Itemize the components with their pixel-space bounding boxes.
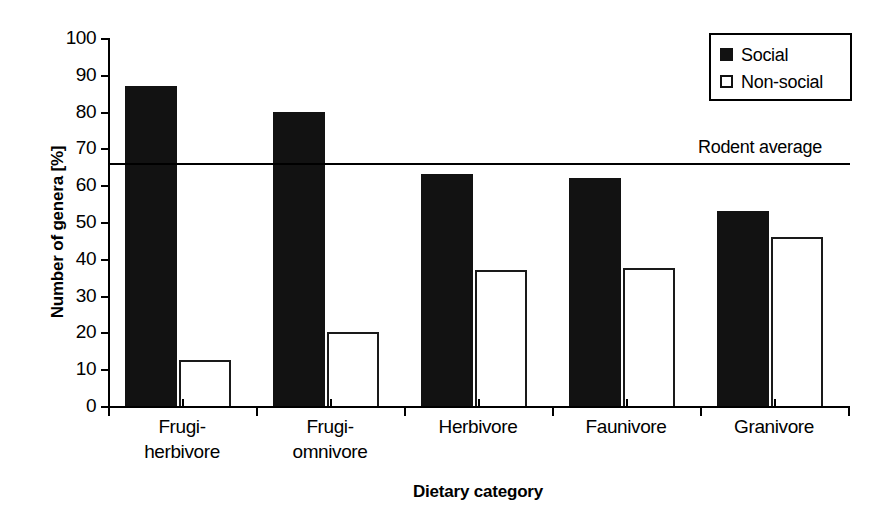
bar-chart-figure: Number of genera [%] 1009080706050403020… xyxy=(0,0,877,524)
x-axis-category-label-line: Granivore xyxy=(700,414,848,439)
bar-social xyxy=(421,174,473,406)
bar-nonsocial xyxy=(475,270,527,406)
x-axis-category-label-line: Frugi- xyxy=(108,414,256,439)
x-axis-category-label: Faunivore xyxy=(552,414,700,439)
bar-social xyxy=(569,178,621,406)
y-axis-tick-mark xyxy=(101,148,109,150)
bar-social xyxy=(717,211,769,406)
x-axis-tick-mark xyxy=(848,407,850,416)
bar-social xyxy=(125,86,177,406)
y-axis-tick-mark xyxy=(101,75,109,77)
y-axis-tick-label: 60 xyxy=(50,175,96,194)
y-axis-tick-label: 0 xyxy=(50,396,96,415)
y-axis-tick-mark xyxy=(101,112,109,114)
x-axis-category-label-line: omnivore xyxy=(256,439,404,464)
y-axis-tick-mark xyxy=(101,259,109,261)
x-axis-tick-labels: Frugi-herbivoreFrugi-omnivoreHerbivoreFa… xyxy=(108,414,848,478)
y-axis-tick-label: 80 xyxy=(50,102,96,121)
x-axis-minor-tick-mark xyxy=(330,399,332,408)
y-axis-tick-mark xyxy=(101,38,109,40)
x-axis-category-label-line: Faunivore xyxy=(552,414,700,439)
y-axis-tick-labels: 1009080706050403020100 xyxy=(50,0,96,524)
y-axis-tick-label: 50 xyxy=(50,212,96,231)
x-axis-category-label: Herbivore xyxy=(404,414,552,439)
x-axis-category-label: Granivore xyxy=(700,414,848,439)
bar-nonsocial xyxy=(623,268,675,406)
x-axis-minor-tick-mark xyxy=(626,399,628,408)
x-axis-category-label: Frugi-herbivore xyxy=(108,414,256,464)
y-axis-tick-label: 40 xyxy=(50,249,96,268)
bar-nonsocial xyxy=(327,332,379,406)
x-axis-category-label: Frugi-omnivore xyxy=(256,414,404,464)
legend-item: Social xyxy=(720,41,850,68)
open-square-icon xyxy=(720,75,733,88)
x-axis-minor-tick-mark xyxy=(478,399,480,408)
x-axis-minor-tick-mark xyxy=(182,399,184,408)
filled-square-icon xyxy=(720,48,733,61)
y-axis-tick-label: 90 xyxy=(50,65,96,84)
y-axis-tick-mark xyxy=(101,332,109,334)
bar-social xyxy=(273,112,325,406)
x-axis-category-label-line: Herbivore xyxy=(404,414,552,439)
legend-item: Non-social xyxy=(720,68,850,95)
bar-nonsocial xyxy=(179,360,231,406)
y-axis-tick-label: 20 xyxy=(50,322,96,341)
x-axis-category-label-line: herbivore xyxy=(108,439,256,464)
legend-item-label: Social xyxy=(741,46,788,64)
y-axis-tick-label: 70 xyxy=(50,138,96,157)
x-axis-category-label-line: Frugi- xyxy=(256,414,404,439)
rodent-average-label: Rodent average xyxy=(698,137,822,158)
y-axis-tick-mark xyxy=(101,296,109,298)
y-axis-tick-label: 10 xyxy=(50,359,96,378)
legend: SocialNon-social xyxy=(709,33,852,101)
y-axis-tick-mark xyxy=(101,222,109,224)
bar-nonsocial xyxy=(771,237,823,406)
y-axis-tick-label: 100 xyxy=(50,28,96,47)
y-axis-tick-mark xyxy=(101,185,109,187)
y-axis-tick-label: 30 xyxy=(50,286,96,305)
legend-item-label: Non-social xyxy=(741,73,823,91)
rodent-average-line xyxy=(108,163,850,165)
x-axis-title: Dietary category xyxy=(108,482,848,502)
x-axis-minor-tick-mark xyxy=(774,399,776,408)
y-axis-tick-mark xyxy=(101,369,109,371)
